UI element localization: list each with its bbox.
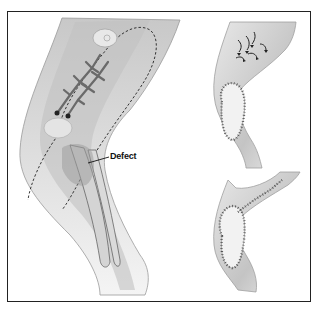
bone-head	[93, 29, 117, 47]
top-right-panel-leg	[214, 22, 296, 168]
knee-flap-illustration	[0, 0, 320, 311]
left-panel-leg	[20, 18, 180, 295]
vessel-origin-dot-1	[55, 111, 60, 116]
defect-label: Defect	[110, 151, 136, 161]
patella	[44, 118, 72, 138]
vessel-origin-dot-2	[66, 114, 71, 119]
bottom-right-panel-leg	[214, 172, 300, 292]
